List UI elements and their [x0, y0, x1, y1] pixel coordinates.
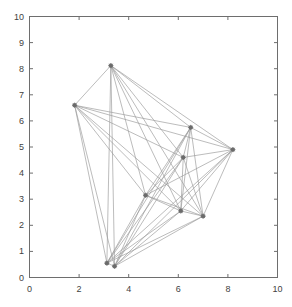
- graph-edge: [111, 66, 233, 150]
- graph-edge: [115, 157, 184, 266]
- graph-edge: [107, 66, 111, 264]
- y-axis-tick-label: 1: [6, 247, 24, 256]
- graph-edge: [181, 150, 233, 211]
- graph-edge: [146, 195, 204, 216]
- graph-edge: [115, 127, 191, 266]
- x-axis-tick-label: 10: [272, 285, 282, 294]
- graph-edge: [107, 195, 146, 263]
- graph-edge: [111, 66, 115, 267]
- graph-edge: [111, 66, 181, 211]
- x-axis-tick-label: 6: [176, 285, 181, 294]
- figure-container: 0246810012345678910: [0, 0, 292, 307]
- graph-edge: [111, 66, 183, 158]
- tick-marks: [30, 17, 278, 278]
- graph-edge: [75, 105, 181, 211]
- y-axis-tick-label: 6: [6, 116, 24, 125]
- edge-group: [75, 66, 233, 267]
- graph-node[interactable]: [143, 193, 148, 198]
- graph-node[interactable]: [112, 264, 117, 269]
- y-axis-tick-label: 7: [6, 90, 24, 99]
- y-axis-tick-label: 3: [6, 195, 24, 204]
- graph-edge: [111, 66, 146, 196]
- graph-edge: [115, 216, 204, 266]
- graph-node[interactable]: [181, 155, 186, 160]
- graph-edge: [146, 157, 184, 195]
- y-axis-tick-label: 0: [6, 273, 24, 282]
- graph-edge: [115, 195, 146, 266]
- graph-edge: [75, 66, 111, 106]
- x-axis-tick-label: 4: [126, 285, 131, 294]
- axis-frame: [30, 17, 278, 278]
- node-group: [72, 63, 235, 269]
- graph-node[interactable]: [72, 103, 77, 108]
- y-axis-tick-label: 10: [6, 12, 24, 21]
- y-axis-tick-label: 8: [6, 64, 24, 73]
- graph-edge: [111, 66, 191, 128]
- y-axis-tick-label: 4: [6, 169, 24, 178]
- graph-edge: [203, 150, 233, 217]
- scatter-plot-canvas: [0, 0, 292, 307]
- x-axis-tick-label: 8: [225, 285, 230, 294]
- y-axis-tick-label: 5: [6, 143, 24, 152]
- x-axis-tick-label: 0: [27, 285, 32, 294]
- graph-node[interactable]: [201, 214, 206, 219]
- y-axis-tick-label: 9: [6, 38, 24, 47]
- y-axis-tick-label: 2: [6, 221, 24, 230]
- graph-edge: [191, 127, 233, 149]
- graph-edge: [183, 127, 190, 157]
- x-axis-tick-label: 2: [77, 285, 82, 294]
- graph-node[interactable]: [104, 261, 109, 266]
- graph-node[interactable]: [108, 63, 113, 68]
